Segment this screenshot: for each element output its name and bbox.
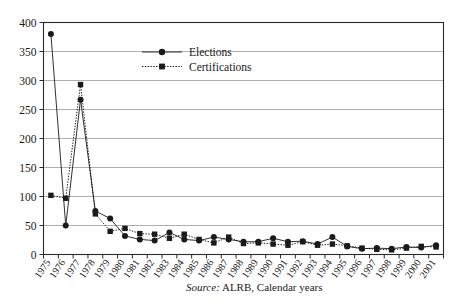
data-point-elections — [48, 31, 54, 37]
chart-figure: 050100150200250300350400 197519761977197… — [0, 0, 461, 304]
data-point-certifications — [256, 240, 261, 245]
x-axis-tick-labels: 1975197619771978197919801981198219831984… — [32, 257, 438, 280]
gridlines — [44, 23, 444, 226]
data-point-certifications — [167, 236, 172, 241]
data-point-elections — [152, 238, 158, 244]
data-point-certifications — [196, 237, 201, 242]
line-chart: 050100150200250300350400 197519761977197… — [0, 0, 461, 304]
data-point-certifications — [374, 247, 379, 252]
data-point-certifications — [300, 239, 305, 244]
y-tick-label: 300 — [19, 75, 37, 87]
data-point-certifications — [226, 234, 231, 239]
data-point-elections — [63, 223, 69, 229]
y-tick-label: 100 — [19, 191, 37, 203]
y-tick-label: 150 — [19, 162, 37, 174]
data-point-certifications — [404, 245, 409, 250]
data-point-certifications — [285, 243, 290, 248]
data-point-certifications — [63, 196, 68, 201]
data-point-elections — [270, 235, 276, 241]
data-point-elections — [107, 216, 113, 222]
data-point-certifications — [315, 243, 320, 248]
y-tick-label: 0 — [31, 249, 37, 261]
data-point-certifications — [122, 226, 127, 231]
data-point-elections — [122, 233, 128, 239]
legend-label-elections: Elections — [189, 46, 232, 58]
data-point-elections — [181, 236, 187, 242]
y-tick-label: 350 — [19, 46, 37, 58]
legend-marker-certifications — [159, 64, 165, 70]
data-point-certifications — [182, 232, 187, 237]
data-point-certifications — [78, 82, 83, 87]
data-point-certifications — [433, 244, 438, 249]
data-point-certifications — [211, 240, 216, 245]
data-point-elections — [211, 234, 217, 240]
y-tick-label: 400 — [19, 17, 37, 29]
source-label: Source: — [186, 281, 220, 293]
legend-marker-elections — [159, 49, 165, 55]
x-tick-label: 2001 — [417, 257, 437, 280]
source-note: Source: ALRB, Calendar years — [186, 281, 322, 293]
y-tick-label: 250 — [19, 104, 37, 116]
data-point-elections — [78, 97, 84, 103]
data-point-certifications — [241, 241, 246, 246]
y-tick-label: 50 — [25, 220, 37, 232]
data-point-certifications — [345, 243, 350, 248]
data-point-elections — [166, 229, 172, 235]
chart-legend: ElectionsCertifications — [142, 46, 252, 73]
y-axis-tick-labels: 050100150200250300350400 — [19, 17, 37, 261]
data-point-certifications — [107, 229, 112, 234]
data-point-certifications — [137, 231, 142, 236]
data-point-certifications — [389, 247, 394, 252]
source-text: ALRB, Calendar years — [220, 281, 323, 293]
data-point-certifications — [48, 193, 53, 198]
y-axis-ticks — [40, 23, 44, 255]
data-point-elections — [329, 234, 335, 240]
legend-label-certifications: Certifications — [189, 61, 252, 73]
data-point-certifications — [419, 244, 424, 249]
data-point-certifications — [330, 241, 335, 246]
data-point-certifications — [93, 211, 98, 216]
data-point-elections — [137, 236, 143, 242]
data-point-certifications — [270, 241, 275, 246]
y-tick-label: 200 — [19, 133, 37, 145]
data-point-certifications — [359, 245, 364, 250]
data-point-certifications — [152, 232, 157, 237]
